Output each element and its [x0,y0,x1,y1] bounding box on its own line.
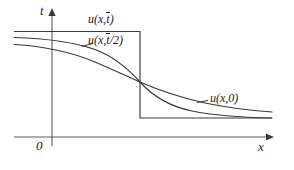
curve-label-prefix: u(x, [210,91,228,105]
axis-label-t: t [40,4,44,17]
origin-label: 0 [36,139,43,152]
axis-label-x: x [258,140,264,153]
curve-label-suffix: 0) [228,91,238,105]
curve-label-u-x-0: u(x,0) [210,92,238,104]
curve-step-u-x-tbar [14,32,272,119]
curve-label-prefix: u(x, [88,12,106,26]
t-bar-glyph: t [106,13,109,25]
t-bar-glyph: t [106,34,109,46]
t-axis [48,8,55,146]
curve-label-u-x-tbar: u(x,t) [88,13,114,25]
curve-label-prefix: u(x, [88,33,106,47]
x-axis [14,133,274,140]
curve-label-suffix: ) [110,12,114,26]
curve-label-suffix: /2) [110,33,123,47]
curve-label-u-x-tbar-half: u(x,t/2) [88,34,123,46]
figure-container: t x 0 u(x,t) u(x,t/2) u(x,0) [0,0,294,170]
shock-formation-plot [0,0,294,170]
